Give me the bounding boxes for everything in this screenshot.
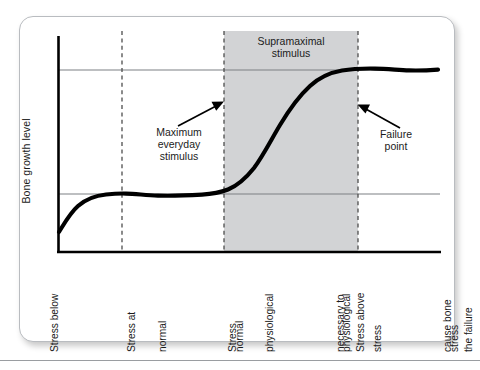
supramaximal-band [224, 31, 358, 252]
y-axis-title: Bone growth level [20, 91, 32, 231]
x-category-line: Stress above [355, 256, 366, 352]
x-category-line: Stress at [126, 256, 137, 352]
annotation-failure-point: Failure point [366, 128, 426, 152]
arrow-head-failure-point [358, 105, 371, 114]
x-category-line: Stress [227, 256, 238, 352]
footer-separator-rule [0, 360, 480, 361]
x-category-stress-above-failure: Stress above the failure point, causing … [366, 256, 480, 352]
arrow-line-failure-point [364, 108, 400, 128]
annotation-maximum-everyday-stimulus: Maximum everyday stimulus [142, 126, 216, 163]
supramaximal-band-label: Supramaximal stimulus [224, 35, 358, 59]
arrow-head-maximum-everyday-stimulus [212, 102, 225, 111]
x-category-line: the failure [463, 256, 474, 352]
x-category-line: Stress below [49, 256, 60, 352]
x-category-line: necessary to [335, 256, 346, 352]
figure-root: Supramaximal stimulus Bone growth level … [0, 0, 480, 370]
arrow-line-maximum-everyday-stimulus [178, 105, 218, 126]
